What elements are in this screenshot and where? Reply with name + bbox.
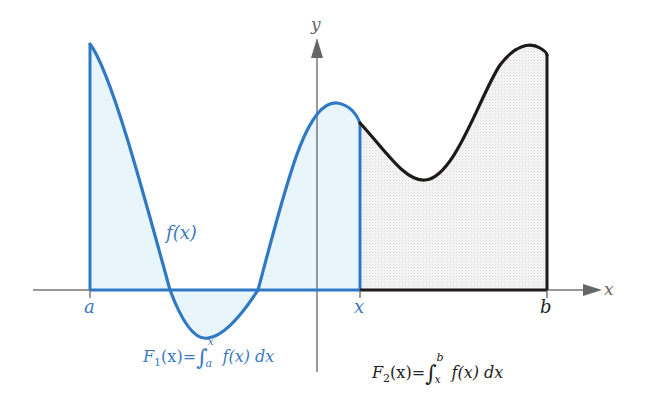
formula-F2: F2(x)=∫bx f(x) dx bbox=[372, 361, 503, 386]
y-axis-arrow-icon bbox=[311, 38, 323, 58]
F1-lower-limit: a bbox=[206, 357, 213, 370]
integral-diagram bbox=[0, 0, 647, 409]
F1-name: F bbox=[143, 347, 154, 366]
F2-lower-limit: x bbox=[435, 373, 441, 386]
F2-name: F bbox=[372, 363, 383, 382]
area-F2 bbox=[360, 45, 547, 290]
x-axis-arrow-icon bbox=[583, 284, 602, 296]
F2-upper-limit: b bbox=[437, 351, 444, 364]
F2-arg: (x) bbox=[390, 363, 412, 382]
F1-eq: = bbox=[183, 347, 196, 366]
F2-integrand: f(x) dx bbox=[452, 363, 504, 382]
F2-eq: = bbox=[412, 363, 425, 382]
F1-integrand: f(x) dx bbox=[223, 347, 275, 366]
point-b-label: b bbox=[540, 296, 552, 317]
formula-F1: F1(x)=∫xa f(x) dx bbox=[143, 345, 274, 370]
F1-upper-limit: x bbox=[208, 335, 214, 348]
point-x-label: x bbox=[354, 296, 364, 317]
point-a-label: a bbox=[84, 296, 95, 317]
x-axis-label: x bbox=[604, 279, 614, 299]
y-axis-label: y bbox=[311, 14, 321, 34]
F1-arg: (x) bbox=[161, 347, 183, 366]
curve-label: f(x) bbox=[166, 222, 197, 243]
area-F1 bbox=[90, 44, 360, 338]
